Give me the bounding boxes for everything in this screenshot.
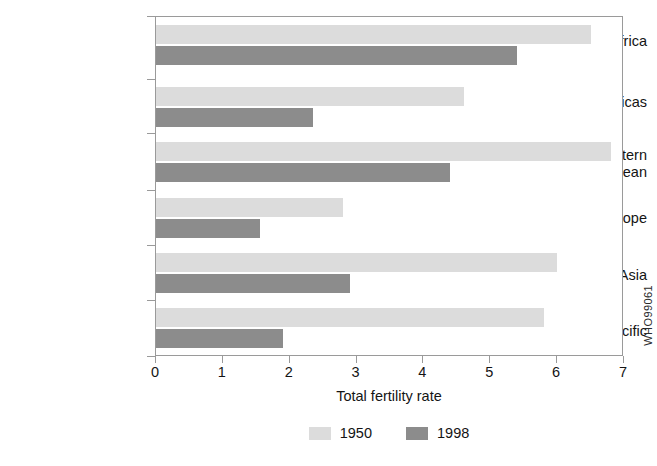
source-credit-code: WHO99061	[642, 285, 654, 346]
y-axis-tick	[147, 300, 155, 301]
x-axis-tick	[623, 356, 624, 363]
x-axis-tick-label-2: 2	[274, 364, 304, 380]
legend-swatch-icon-1998	[406, 427, 428, 440]
y-axis-tick	[147, 133, 155, 134]
chart-legend: 1950 1998	[155, 425, 623, 441]
bar-africa-1998	[156, 46, 517, 65]
x-axis-tick	[489, 356, 490, 363]
x-axis-tick-label-5: 5	[474, 364, 504, 380]
plot-area	[155, 16, 623, 356]
legend-swatch-icon-1950	[309, 427, 331, 440]
bar-eastern-mediterranean-1950	[156, 142, 611, 161]
legend-label-1950: 1950	[340, 425, 372, 441]
y-axis-tick	[147, 16, 155, 17]
x-axis-tick-label-4: 4	[407, 364, 437, 380]
bar-europe-1950	[156, 198, 343, 217]
bar-the-americas-1998	[156, 108, 313, 127]
x-axis-tick	[222, 356, 223, 363]
x-axis-tick-label-1: 1	[207, 364, 237, 380]
x-axis-tick-label-3: 3	[341, 364, 371, 380]
bar-the-americas-1950	[156, 87, 464, 106]
x-axis-tick-label-7: 7	[608, 364, 638, 380]
bar-eastern-mediterranean-1998	[156, 163, 450, 182]
legend-label-1998: 1998	[437, 425, 469, 441]
y-axis-tick	[147, 190, 155, 191]
bar-western-pacific-1950	[156, 308, 544, 327]
x-axis-tick	[422, 356, 423, 363]
legend-item-1950: 1950	[309, 425, 372, 441]
x-axis-tick-label-0: 0	[140, 364, 170, 380]
bar-europe-1998	[156, 219, 260, 238]
x-axis-tick	[356, 356, 357, 363]
y-axis-tick	[147, 356, 155, 357]
x-axis-title: Total fertility rate	[155, 388, 623, 404]
y-axis-tick	[147, 245, 155, 246]
bar-south-east-asia-1998	[156, 274, 350, 293]
fertility-rate-bar-chart: Africa The Americas Eastern Mediterranea…	[0, 0, 657, 466]
y-axis-tick	[147, 79, 155, 80]
bar-western-pacific-1998	[156, 329, 283, 348]
bar-africa-1950	[156, 25, 591, 44]
x-axis-tick	[556, 356, 557, 363]
x-axis-tick	[289, 356, 290, 363]
legend-item-1998: 1998	[406, 425, 469, 441]
x-axis-tick-label-6: 6	[541, 364, 571, 380]
x-axis-tick	[155, 356, 156, 363]
bar-south-east-asia-1950	[156, 253, 557, 272]
